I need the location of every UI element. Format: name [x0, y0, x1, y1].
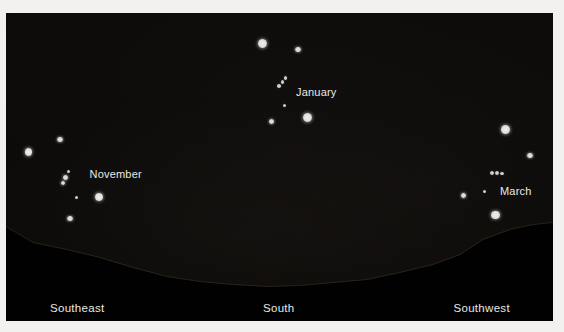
- star-field: November January March Southeast South S…: [0, 0, 564, 332]
- figure-page: November January March Southeast South S…: [0, 0, 564, 332]
- star: [67, 170, 71, 174]
- label-southwest: Southwest: [454, 302, 510, 314]
- star: [57, 137, 63, 143]
- star: [490, 171, 494, 175]
- label-january: January: [296, 86, 337, 98]
- star: [527, 153, 533, 159]
- label-march: March: [500, 185, 532, 197]
- star: [63, 175, 68, 180]
- star: [277, 84, 281, 88]
- star: [284, 76, 288, 80]
- star: [95, 193, 103, 201]
- star: [269, 119, 274, 124]
- star: [495, 171, 499, 175]
- star: [461, 193, 466, 198]
- star: [67, 216, 73, 222]
- star: [75, 196, 78, 199]
- star: [258, 39, 267, 48]
- star: [283, 104, 286, 107]
- star: [303, 113, 312, 122]
- star: [295, 47, 301, 53]
- star: [491, 211, 500, 220]
- label-southeast: Southeast: [50, 302, 105, 314]
- star: [281, 80, 285, 84]
- star: [501, 125, 510, 134]
- label-november: November: [90, 168, 142, 180]
- star: [500, 172, 504, 176]
- star: [483, 190, 486, 193]
- star: [25, 148, 33, 156]
- star: [61, 181, 66, 186]
- label-south: South: [263, 302, 295, 314]
